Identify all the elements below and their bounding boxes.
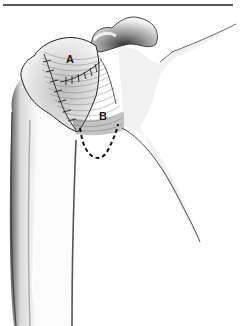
shoulder-illustration: A B: [0, 0, 242, 326]
label-a: A: [66, 53, 74, 65]
scapula: [118, 24, 236, 240]
scapular-spine: [172, 24, 236, 52]
humerus-shaft: [34, 108, 76, 326]
label-b: B: [99, 110, 107, 122]
illustration-canvas: [0, 0, 242, 326]
scapula-border: [122, 128, 200, 242]
